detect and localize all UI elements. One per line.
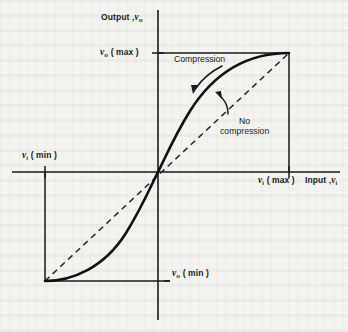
compression-arrowhead xyxy=(191,85,199,94)
vo-min-subscript: o xyxy=(176,272,180,279)
vi-min-label: vi ( min ) xyxy=(22,150,57,160)
compression-annotation: Compression xyxy=(174,54,225,64)
no-compression-arrowhead xyxy=(215,91,222,99)
no-compression-line-2: compression xyxy=(220,126,269,136)
y-axis-title-text: Output , xyxy=(101,12,134,22)
vi-min-text: ( min ) xyxy=(31,150,57,160)
compression-characteristic-figure: Output ,vo vo ( max ) vi ( min ) vi ( ma… xyxy=(0,0,348,332)
vi-max-text: ( max ) xyxy=(267,175,295,185)
x-axis-variable: v xyxy=(331,175,335,185)
x-axis-title: Input ,vi xyxy=(305,175,337,185)
vo-max-text: ( max ) xyxy=(111,47,139,57)
vo-min-label: vo ( min ) xyxy=(172,268,209,278)
vo-min-text: ( min ) xyxy=(183,268,209,278)
y-axis-title: Output ,vo xyxy=(101,12,143,22)
vo-max-subscript: o xyxy=(104,51,108,58)
vi-max-subscript: i xyxy=(262,179,264,186)
x-axis-title-text: Input , xyxy=(305,175,331,185)
no-compression-line-1: No xyxy=(220,116,269,126)
vi-max-label: vi ( max ) xyxy=(258,175,295,185)
plot-canvas xyxy=(0,0,348,332)
y-axis-subscript: o xyxy=(139,16,143,23)
vo-max-label: vo ( max ) xyxy=(100,47,139,57)
no-compression-annotation: No compression xyxy=(220,116,269,136)
no-compression-leader-arrow xyxy=(220,96,228,114)
no-compression-line xyxy=(45,53,289,281)
vi-min-subscript: i xyxy=(26,154,28,161)
x-axis-subscript: i xyxy=(336,179,338,186)
